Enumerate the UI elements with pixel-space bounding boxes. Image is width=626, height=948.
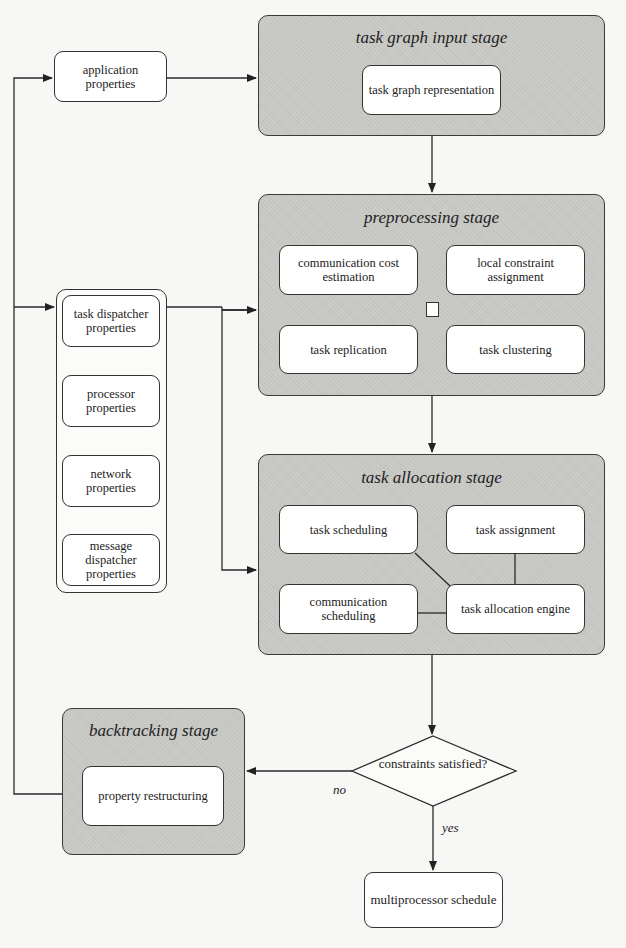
task-scheduling-box: task scheduling	[279, 505, 418, 554]
component-label: task assignment	[476, 523, 556, 537]
communication-scheduling-box: communication scheduling	[279, 584, 418, 634]
task-allocation-engine-box: task allocation engine	[446, 584, 585, 634]
component-label: task allocation engine	[461, 602, 570, 616]
component-label: task scheduling	[310, 523, 387, 537]
task-assignment-box: task assignment	[446, 505, 585, 554]
component-label: communication scheduling	[284, 595, 413, 623]
allocation-connectors	[0, 0, 626, 948]
flow-diagram: application properties task dispatcher p…	[0, 0, 626, 948]
